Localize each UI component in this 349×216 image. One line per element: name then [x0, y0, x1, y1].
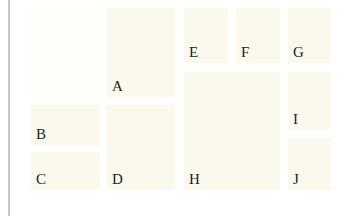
box-b: B — [31, 105, 100, 145]
box-i: I — [288, 72, 331, 130]
box-d: D — [107, 105, 175, 190]
box-h: H — [184, 72, 280, 190]
box-c-label: C — [36, 172, 46, 187]
box-i-label: I — [293, 112, 298, 127]
box-j-label: J — [293, 172, 299, 187]
box-d-label: D — [112, 172, 123, 187]
box-a: A — [107, 8, 175, 97]
box-g-label: G — [293, 45, 304, 60]
box-b-label: B — [36, 127, 46, 142]
box-a-label: A — [112, 79, 123, 94]
box-e: E — [184, 8, 228, 63]
box-blank — [31, 8, 100, 97]
box-g: G — [288, 8, 331, 63]
box-f-label: F — [241, 45, 249, 60]
left-border-rule — [8, 0, 10, 216]
box-c: C — [31, 152, 100, 190]
box-f: F — [236, 8, 280, 63]
box-h-label: H — [189, 172, 200, 187]
box-j: J — [288, 138, 331, 190]
box-e-label: E — [189, 45, 198, 60]
